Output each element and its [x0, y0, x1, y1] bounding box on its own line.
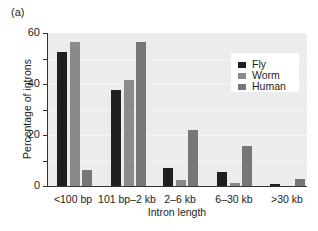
x-tick-label: 2–6 kb [164, 193, 196, 205]
y-axis-label: Percentage of introns [21, 49, 33, 169]
y-tick-label: 0 [14, 180, 40, 191]
y-axis [47, 33, 48, 187]
x-axis [47, 186, 307, 187]
y-tick-label: 40 [14, 78, 40, 89]
panel-label: (a) [11, 6, 24, 18]
legend-item-human: Human [238, 81, 286, 92]
y-tick [43, 33, 47, 34]
x-tick-label: >30 kb [271, 193, 303, 205]
bar-fly [163, 168, 173, 186]
bar-fly [217, 172, 227, 186]
legend-swatch-worm [238, 73, 246, 79]
x-tick-label: 101 bp–2 kb [98, 193, 156, 205]
bar-worm [70, 42, 80, 186]
gridline [48, 135, 307, 136]
bar-fly [111, 90, 121, 186]
bar-human [295, 179, 305, 186]
bar-human [188, 130, 198, 186]
legend-label-human: Human [252, 81, 286, 92]
bar-human [136, 42, 146, 186]
bar-fly [270, 184, 280, 186]
x-axis-label: Intron length [0, 206, 318, 218]
y-tick-label: 60 [14, 27, 40, 38]
legend-swatch-fly [238, 62, 246, 68]
y-tick [43, 161, 47, 162]
x-tick-label: 6–30 kb [215, 193, 252, 205]
y-tick [43, 135, 47, 136]
bar-human [82, 170, 92, 186]
bar-fly [57, 52, 67, 186]
bar-worm [230, 183, 240, 186]
legend-swatch-human [238, 84, 246, 90]
y-tick [43, 110, 47, 111]
bar-worm [176, 180, 186, 186]
bar-worm [124, 80, 134, 186]
y-tick-label: 20 [14, 129, 40, 140]
gridline [48, 161, 307, 162]
y-tick [43, 186, 47, 187]
y-tick [43, 84, 47, 85]
bar-human [242, 146, 252, 186]
y-tick [43, 59, 47, 60]
x-tick-label: <100 bp [54, 193, 92, 205]
gridline [48, 110, 307, 111]
legend: Fly Worm Human [231, 53, 299, 92]
